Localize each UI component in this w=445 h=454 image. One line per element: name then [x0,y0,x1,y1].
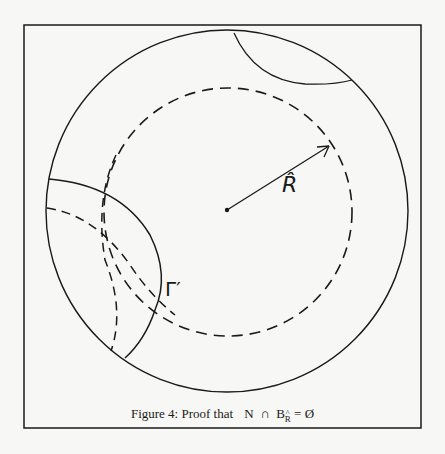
top-right-arc [234,33,352,84]
math-equals-empty: = Ø [294,406,314,421]
gamma-prime-label: Γ′ [165,277,181,301]
figure-caption: Figure 4: Proof that N ∩ BR = Ø [0,406,445,424]
gamma-prime-arc [49,179,161,358]
caption-math: N ∩ BR = Ø [244,406,314,421]
vertical-dashed-arc [102,155,117,351]
radius-label: R̂ [282,172,297,197]
left-dashed-arc [47,208,175,315]
math-B: B [276,406,285,421]
inner-dashed-circle [104,88,352,336]
caption-prefix: Figure 4: Proof that [131,406,233,421]
radius-arrow [227,146,329,210]
math-intersection: ∩ [260,406,269,421]
math-N: N [244,406,253,421]
figure-frame [24,25,421,428]
math-subscript: R [285,414,291,424]
figure-diagram [0,0,445,454]
